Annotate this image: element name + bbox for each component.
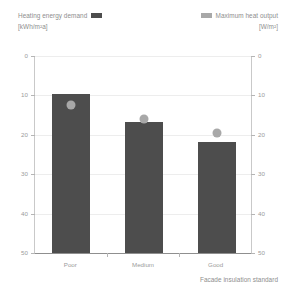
left-axis-tick-label: 40 bbox=[21, 211, 28, 217]
left-axis-tick-label: 50 bbox=[21, 250, 28, 256]
right-axis-tick-mark bbox=[251, 135, 255, 136]
x-axis-tick-mark bbox=[107, 253, 108, 257]
chart-legend: Heating energy demand [kWh/m²a] Maximum … bbox=[0, 0, 286, 44]
left-axis-tick-mark bbox=[31, 56, 35, 57]
left-axis-tick-label: 20 bbox=[21, 132, 28, 138]
bar bbox=[52, 94, 90, 253]
right-axis-tick-mark bbox=[251, 56, 255, 57]
right-axis-tick-label: 10 bbox=[258, 92, 265, 98]
legend-entry-heating-energy-demand: Heating energy demand [kWh/m²a] bbox=[18, 11, 102, 31]
legend-entry-maximum-heat-output: Maximum heat output [W/m²] bbox=[201, 11, 278, 31]
x-axis: PoorMediumGood bbox=[34, 253, 252, 273]
right-axis-tick-label: 40 bbox=[258, 211, 265, 217]
bar bbox=[125, 122, 163, 253]
legend-unit-maximum-heat-output: [W/m²] bbox=[201, 22, 278, 32]
right-axis-tick-label: 30 bbox=[258, 171, 265, 177]
bar-series-swatch-icon bbox=[91, 13, 102, 18]
x-axis-title: Facade insulation standard bbox=[200, 276, 278, 284]
right-axis-tick-label: 0 bbox=[258, 53, 261, 59]
right-axis-tick-mark bbox=[251, 174, 255, 175]
data-point bbox=[140, 115, 149, 124]
left-axis-tick-label: 0 bbox=[25, 53, 28, 59]
right-axis-tick-label: 20 bbox=[258, 132, 265, 138]
legend-label-heating-energy-demand: Heating energy demand bbox=[18, 11, 87, 21]
left-axis-tick-mark bbox=[31, 214, 35, 215]
left-axis-tick-mark bbox=[31, 135, 35, 136]
category-label: Good bbox=[208, 261, 223, 268]
right-axis-tick-label: 50 bbox=[258, 250, 265, 256]
left-axis-tick-mark bbox=[31, 174, 35, 175]
legend-unit-heating-energy-demand: [kWh/m²a] bbox=[18, 22, 102, 32]
chart-figure: Heating energy demand [kWh/m²a] Maximum … bbox=[0, 0, 286, 294]
gridline bbox=[35, 56, 251, 57]
plot-area: 5050404030302020101000 bbox=[34, 56, 252, 253]
x-axis-tick-mark bbox=[179, 253, 180, 257]
data-point bbox=[67, 101, 76, 110]
data-point bbox=[212, 128, 221, 137]
legend-label-maximum-heat-output: Maximum heat output bbox=[216, 11, 278, 21]
bar bbox=[198, 142, 236, 254]
category-label: Poor bbox=[64, 261, 77, 268]
right-axis-tick-mark bbox=[251, 214, 255, 215]
left-axis-tick-label: 10 bbox=[21, 92, 28, 98]
right-axis-tick-mark bbox=[251, 95, 255, 96]
left-axis-tick-mark bbox=[31, 95, 35, 96]
left-axis-tick-label: 30 bbox=[21, 171, 28, 177]
point-series-swatch-icon bbox=[201, 13, 212, 18]
category-label: Medium bbox=[132, 261, 154, 268]
